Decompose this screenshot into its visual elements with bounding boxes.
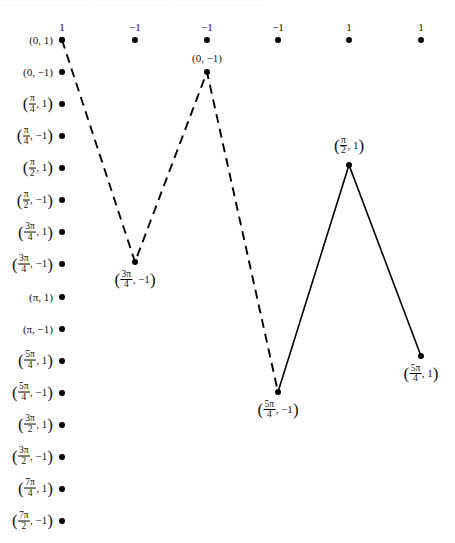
top-row-dot: [132, 37, 138, 43]
dashed-polyline: [62, 40, 278, 392]
vertex-dot: [132, 259, 138, 265]
row-label: (0, 1): [29, 35, 53, 46]
top-row-value: −1: [272, 22, 284, 33]
row-label: (3π4, −1): [12, 254, 53, 275]
row-label: (π2, 1): [23, 158, 53, 179]
top-row-value: 1: [418, 22, 424, 33]
row-label: (π2, −1): [17, 190, 53, 211]
vertex-dot: [418, 353, 424, 359]
top-row-dot: [418, 37, 424, 43]
vertex-label-three-pi-over-four-minus-one: (3π4, −1): [114, 270, 155, 291]
row-label: (π4, 1): [23, 94, 53, 115]
row-label: (0, −1): [23, 67, 53, 78]
math-diagram: ............ ...... ....................…: [0, 0, 455, 543]
column-dot: [59, 518, 65, 524]
vertex-dot: [346, 162, 352, 168]
row-label: (3π2, 1): [18, 414, 53, 435]
row-label: (3π4, 1): [18, 222, 53, 243]
top-row-value: −1: [129, 22, 141, 33]
vertex-label-five-pi-over-four-one: (5π4, 1): [404, 364, 439, 385]
row-label: (π, −1): [23, 323, 53, 334]
column-dot: [59, 358, 65, 364]
row-label: (7π4, 1): [18, 479, 53, 500]
vertex-dot: [204, 69, 210, 75]
row-label: (π4, −1): [17, 126, 53, 147]
row-label: (5π4, 1): [18, 350, 53, 371]
row-label: (π, 1): [29, 291, 53, 302]
column-dot: [59, 486, 65, 492]
top-row-dot: [204, 37, 210, 43]
vertex-label-pi-over-two-one: (π2, 1): [334, 136, 364, 157]
top-row-value: 1: [59, 22, 65, 33]
column-dot: [59, 390, 65, 396]
top-row-value: −1: [201, 22, 213, 33]
vertex-dot: [59, 37, 65, 43]
row-label: (5π4, −1): [12, 382, 53, 403]
vertex-dot: [275, 389, 281, 395]
column-dot: [59, 454, 65, 460]
column-dot: [59, 326, 65, 332]
top-row-dot: [346, 37, 352, 43]
vertex-label-five-pi-over-four-minus-one: (5π4, −1): [257, 400, 298, 421]
polyline-layer: [0, 0, 455, 543]
row-label: (3π2, −1): [12, 446, 53, 467]
column-dot: [59, 294, 65, 300]
solid-polyline: [278, 165, 421, 392]
row-label: (7π2, −1): [12, 511, 53, 532]
top-row-dot: [275, 37, 281, 43]
vertex-label-origin-minus-one: (0, −1): [192, 53, 222, 64]
top-row-value: 1: [346, 22, 352, 33]
column-dot: [59, 422, 65, 428]
